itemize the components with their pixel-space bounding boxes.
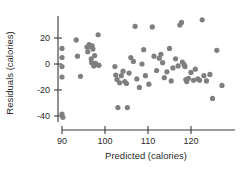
data-point	[133, 24, 138, 29]
data-point	[119, 73, 124, 78]
data-point	[134, 76, 139, 81]
data-point	[197, 78, 202, 83]
x-tick-label: 120	[183, 136, 198, 146]
data-point	[137, 85, 142, 90]
y-axis-title: Residuals (calories)	[4, 31, 15, 114]
data-point	[113, 72, 118, 77]
y-tick-label: -40	[37, 111, 50, 121]
data-point	[188, 70, 193, 75]
data-point	[200, 17, 205, 22]
data-point	[59, 74, 64, 79]
data-point	[124, 81, 129, 86]
data-point	[92, 53, 97, 58]
data-point	[60, 115, 65, 120]
data-point	[112, 64, 117, 69]
data-point	[74, 37, 79, 42]
data-point	[162, 75, 167, 80]
data-point	[182, 64, 187, 69]
data-point	[154, 68, 159, 73]
x-tick-label: 90	[57, 136, 67, 146]
data-point	[59, 64, 64, 69]
data-point	[117, 80, 122, 85]
data-point	[96, 63, 101, 68]
data-point	[201, 73, 206, 78]
data-point	[141, 47, 146, 52]
residual-scatter-figure: 200-20-4090100110120Predicted (calories)…	[0, 0, 242, 173]
data-point	[193, 67, 198, 72]
data-point	[59, 55, 64, 60]
data-point	[169, 78, 174, 83]
data-point	[186, 76, 191, 81]
x-axis-title: Predicted (calories)	[105, 150, 187, 161]
data-point	[150, 24, 155, 29]
data-point	[176, 63, 181, 68]
data-point	[219, 83, 224, 88]
data-point	[167, 46, 172, 51]
data-point	[143, 73, 148, 78]
data-point	[164, 69, 169, 74]
y-tick-label: 20	[40, 33, 50, 43]
data-point	[125, 105, 130, 110]
x-tick-label: 110	[141, 136, 155, 146]
data-point	[96, 32, 101, 37]
data-point	[151, 54, 156, 59]
data-point	[115, 105, 120, 110]
scatter-plot: 200-20-4090100110120Predicted (calories)…	[0, 0, 242, 173]
data-point	[131, 59, 136, 64]
data-point	[85, 49, 90, 54]
data-point	[146, 82, 151, 87]
x-tick-label: 100	[97, 136, 112, 146]
data-point	[207, 72, 212, 77]
data-point	[179, 20, 184, 25]
data-point	[120, 69, 125, 74]
data-point	[78, 74, 83, 79]
data-point	[158, 52, 163, 57]
data-point	[90, 46, 95, 51]
data-point	[173, 56, 178, 61]
y-tick-label: 0	[45, 59, 50, 69]
data-point	[160, 60, 165, 65]
y-tick-label: -20	[37, 85, 50, 95]
data-point	[139, 61, 144, 66]
data-point	[126, 71, 131, 76]
data-point	[170, 65, 175, 70]
data-point	[214, 48, 219, 53]
data-point	[75, 54, 80, 59]
data-point	[59, 46, 64, 51]
data-point	[210, 96, 215, 101]
data-point	[204, 78, 209, 83]
